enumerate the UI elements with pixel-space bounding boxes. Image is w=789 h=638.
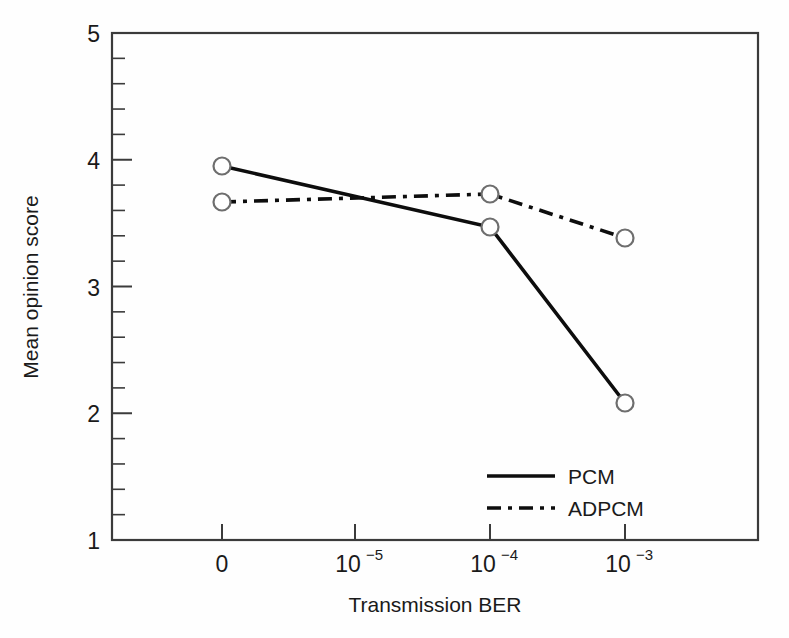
legend-label-adpcm: ADPCM — [568, 497, 644, 520]
x-tick-label-0: 0 — [216, 551, 229, 577]
x-tick-label-1-base: 10 — [335, 551, 361, 577]
x-tick-label-2-exponent: −4 — [501, 546, 518, 563]
legend-entry-pcm: PCM — [487, 465, 615, 488]
legend-entry-adpcm: ADPCM — [487, 497, 644, 520]
chart-legend: PCM ADPCM — [487, 465, 644, 520]
legend-label-pcm: PCM — [568, 465, 615, 488]
x-tick-label-3-base: 10 — [605, 551, 631, 577]
data-point-marker — [617, 395, 634, 412]
x-tick-label-3: 10 −3 — [605, 546, 653, 577]
x-tick-label-1-exponent: −5 — [366, 546, 383, 563]
chart-figure: 5 4 3 2 1 0 10 −5 10 −4 10 −3 Transmissi… — [0, 0, 789, 638]
y-tick-label-5: 5 — [87, 21, 100, 47]
data-point-marker — [482, 219, 499, 236]
plot-frame — [112, 33, 758, 540]
y-tick-label-2: 2 — [87, 401, 100, 427]
y-tick-label-3: 3 — [87, 275, 100, 301]
y-axis-title: Mean opinion score — [19, 195, 42, 378]
x-tick-label-0-base: 0 — [216, 551, 229, 577]
y-tick-label-4: 4 — [87, 148, 100, 174]
series-line-adpcm — [222, 194, 625, 238]
x-tick-label-3-exponent: −3 — [636, 546, 653, 563]
x-tick-label-2: 10 −4 — [470, 546, 518, 577]
y-tick-label-1: 1 — [87, 528, 100, 554]
data-point-marker — [482, 186, 499, 203]
x-axis-title: Transmission BER — [348, 593, 521, 616]
x-axis-major-ticks — [222, 524, 625, 540]
data-point-marker — [214, 158, 231, 175]
data-point-marker — [214, 194, 231, 211]
x-tick-label-1: 10 −5 — [335, 546, 383, 577]
x-tick-label-2-base: 10 — [470, 551, 496, 577]
line-chart: 5 4 3 2 1 0 10 −5 10 −4 10 −3 Transmissi… — [0, 0, 789, 638]
data-point-marker — [617, 230, 634, 247]
series-line-pcm — [222, 166, 625, 403]
